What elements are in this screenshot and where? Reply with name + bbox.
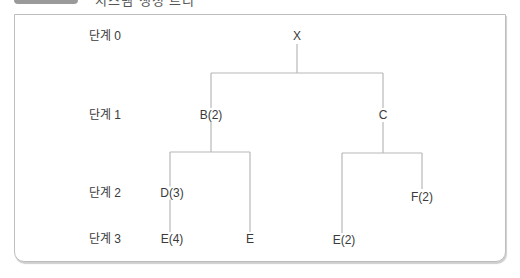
level-0-label: 단계 0 — [89, 30, 121, 43]
node-c: C — [378, 109, 389, 122]
node-f: F(2) — [410, 191, 434, 204]
node-e2: E(2) — [332, 234, 357, 247]
level-2-label: 단계 2 — [89, 187, 121, 200]
level-1-label: 단계 1 — [89, 109, 121, 122]
tree-lines — [0, 0, 520, 278]
level-3-label: 단계 3 — [89, 233, 121, 246]
node-x: X — [292, 30, 302, 43]
node-b: B(2) — [199, 109, 224, 122]
node-e4: E(4) — [160, 233, 185, 246]
node-e: E — [245, 233, 255, 246]
node-d: D(3) — [159, 187, 184, 200]
